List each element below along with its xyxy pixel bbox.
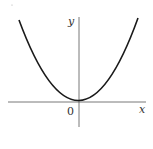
parabola-curve: [19, 18, 138, 101]
y-axis-label: y: [67, 15, 75, 28]
origin-label: 0: [67, 105, 74, 118]
parabola-diagram: y 0 x: [0, 0, 153, 149]
stray-dot: [11, 4, 12, 5]
x-axis-label: x: [139, 103, 146, 116]
